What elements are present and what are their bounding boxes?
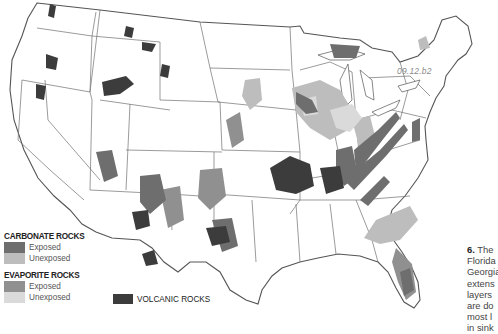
- legend-heading-evaporite: EVAPORITE ROCKS: [4, 271, 85, 280]
- legend-item-volcanic: VOLCANIC ROCKS: [113, 294, 210, 304]
- caption-line-text: The: [477, 244, 493, 255]
- caption-line: in sink: [467, 322, 498, 333]
- caption-line: Florida: [467, 255, 498, 266]
- legend-item-evaporite-unexposed: Unexposed: [4, 292, 85, 303]
- swatch-volcanic: [113, 294, 133, 304]
- legend-label: Unexposed: [29, 293, 70, 302]
- caption-line: 6. The: [467, 244, 498, 255]
- caption-line: Georgia: [467, 266, 498, 277]
- swatch-carbonate-exposed: [4, 242, 25, 253]
- swatch-evaporite-unexposed: [4, 292, 25, 303]
- figure-code: 09.12.b2: [397, 66, 432, 76]
- caption-number: 6.: [467, 244, 475, 255]
- legend-item-evaporite-exposed: Exposed: [4, 281, 85, 292]
- legend-item-carbonate-exposed: Exposed: [4, 242, 85, 253]
- legend-label: Unexposed: [29, 254, 70, 263]
- legend-label: Exposed: [29, 243, 61, 252]
- legend-label: Exposed: [29, 282, 61, 291]
- legend-heading-carbonate: CARBONATE ROCKS: [4, 232, 85, 241]
- caption-line: are do: [467, 300, 498, 311]
- figure-caption: 6. The Florida Georgia extens layers are…: [467, 244, 498, 334]
- legend-group-carbonate: CARBONATE ROCKS Exposed Unexposed: [4, 232, 85, 264]
- legend-item-carbonate-unexposed: Unexposed: [4, 253, 85, 264]
- legend-group-evaporite: EVAPORITE ROCKS Exposed Unexposed: [4, 271, 85, 303]
- caption-line: most l: [467, 311, 498, 322]
- caption-line: extens: [467, 278, 498, 289]
- swatch-carbonate-unexposed: [4, 253, 25, 264]
- map-legend: CARBONATE ROCKS Exposed Unexposed EVAPOR…: [4, 232, 85, 303]
- legend-label-volcanic: VOLCANIC ROCKS: [137, 295, 210, 304]
- caption-line: layers: [467, 289, 498, 300]
- swatch-evaporite-exposed: [4, 281, 25, 292]
